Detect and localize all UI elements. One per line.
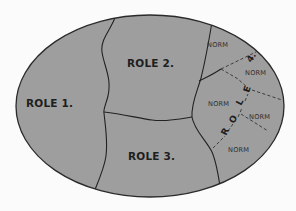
role-norm-diagram: ROLE 1. ROLE 2. ROLE 3. NORM NORM NORM N… — [0, 0, 296, 211]
label-role1: ROLE 1. — [26, 97, 73, 109]
norm-label-5: NORM — [228, 146, 249, 154]
norm-label-3: NORM — [208, 100, 229, 108]
norm-label-4: NORM — [249, 113, 270, 121]
label-role2: ROLE 2. — [127, 57, 174, 69]
label-role3: ROLE 3. — [128, 150, 175, 162]
norm-label-1: NORM — [207, 41, 228, 49]
norm-label-2: NORM — [245, 69, 266, 77]
